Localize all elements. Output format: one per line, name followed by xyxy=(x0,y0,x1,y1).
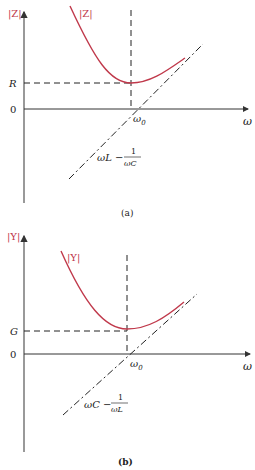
asymptote-frac-num-b: 1 xyxy=(118,393,123,402)
panel-b: |Y| |Y| G 0 ω0 ω ωC − 1 ωL (b) xyxy=(7,231,252,467)
asymptote-frac-num-a: 1 xyxy=(131,147,136,156)
omega0-label-a: ω0 xyxy=(133,113,146,127)
y-axis-label-a: |Z| xyxy=(8,8,22,20)
r-label: R xyxy=(8,78,17,89)
panel-a: |Z| |Z| R 0 ω0 ω ωL − 1 ωC (a) xyxy=(8,6,252,218)
y-axis-label-b: |Y| xyxy=(7,231,20,243)
curve-label-b: |Y| xyxy=(67,252,80,264)
curve-label-a: |Z| xyxy=(79,8,93,20)
asymptote-label-a: ωL − xyxy=(97,152,123,163)
zero-label-b: 0 xyxy=(10,349,16,360)
omega0-label-b: ω0 xyxy=(130,358,143,372)
resonance-diagrams: |Z| |Z| R 0 ω0 ω ωL − 1 ωC (a) |Y| |Y| G… xyxy=(0,0,255,470)
g-label: G xyxy=(10,326,18,337)
caption-a: (a) xyxy=(121,208,133,218)
zero-label-a: 0 xyxy=(10,104,16,115)
caption-b: (b) xyxy=(118,457,133,467)
asymptote-frac-den-b: ωL xyxy=(111,405,123,414)
asymptote-frac-den-a: ωC xyxy=(124,159,137,168)
x-axis-label-b: ω xyxy=(243,360,252,373)
x-axis-label-a: ω xyxy=(243,115,252,128)
asymptote-label-b: ωC − xyxy=(84,399,111,410)
